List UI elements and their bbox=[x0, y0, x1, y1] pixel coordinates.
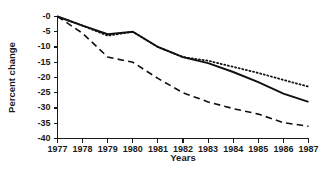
x-tick-label: 1980 bbox=[123, 144, 143, 154]
series-line-dotted bbox=[58, 17, 309, 87]
y-axis-tick-labels: -0-5-10-15-20-25-30-35-40 bbox=[37, 11, 50, 143]
y-tick-label: -5 bbox=[42, 26, 50, 36]
data-series-group bbox=[58, 17, 309, 127]
x-tick-label: 1987 bbox=[298, 144, 318, 154]
x-tick-label: 1985 bbox=[248, 144, 268, 154]
x-axis-ticks bbox=[58, 139, 309, 143]
line-chart: -0-5-10-15-20-25-30-35-40 19771978197919… bbox=[0, 0, 321, 179]
x-tick-label: 1977 bbox=[47, 144, 67, 154]
x-tick-label: 1984 bbox=[223, 144, 243, 154]
x-axis-title: Years bbox=[170, 152, 195, 163]
series-line-solid bbox=[58, 17, 309, 102]
x-tick-label: 1983 bbox=[198, 144, 218, 154]
y-axis-title: Percent change bbox=[6, 42, 17, 113]
x-tick-label: 1979 bbox=[98, 144, 118, 154]
y-tick-label: -20 bbox=[37, 72, 50, 82]
x-tick-label: 1978 bbox=[73, 144, 93, 154]
y-tick-label: -0 bbox=[42, 11, 50, 21]
y-tick-label: -40 bbox=[37, 133, 50, 143]
series-line-dashed bbox=[58, 17, 309, 127]
y-tick-label: -15 bbox=[37, 57, 50, 67]
y-axis-ticks bbox=[54, 17, 58, 139]
chart-figure: -0-5-10-15-20-25-30-35-40 19771978197919… bbox=[0, 0, 321, 179]
y-axis: -0-5-10-15-20-25-30-35-40 bbox=[37, 11, 57, 143]
x-tick-label: 1986 bbox=[273, 144, 293, 154]
x-tick-label: 1981 bbox=[148, 144, 168, 154]
y-tick-label: -35 bbox=[37, 118, 50, 128]
y-tick-label: -30 bbox=[37, 102, 50, 112]
y-tick-label: -10 bbox=[37, 41, 50, 51]
y-tick-label: -25 bbox=[37, 87, 50, 97]
